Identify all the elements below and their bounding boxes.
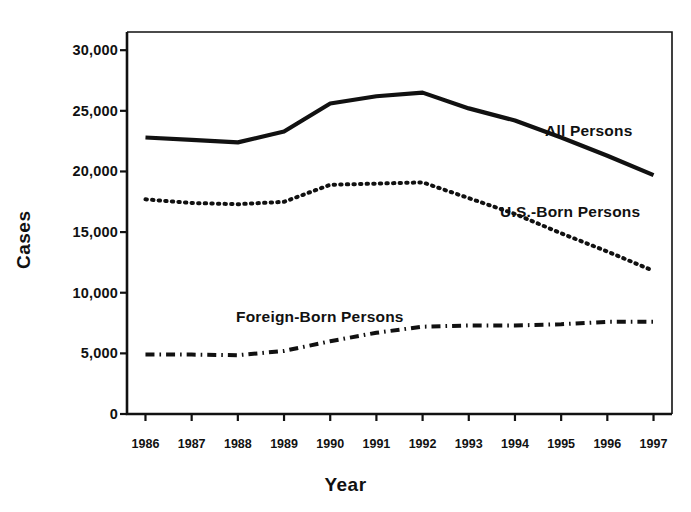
y-tick-label: 30,000 bbox=[72, 42, 118, 58]
x-tick-label: 1986 bbox=[132, 437, 160, 451]
y-tick-label: 25,000 bbox=[72, 103, 118, 119]
x-tick-label: 1990 bbox=[316, 437, 344, 451]
x-tick-label: 1992 bbox=[409, 437, 437, 451]
y-axis-title: Cases bbox=[4, 150, 44, 330]
series-line bbox=[145, 182, 653, 271]
series-label: U.S.-Born Persons bbox=[500, 203, 640, 221]
y-tick-label: 5,000 bbox=[81, 345, 118, 361]
x-tick-label: 1995 bbox=[547, 437, 575, 451]
x-tick-label: 1989 bbox=[270, 437, 298, 451]
x-tick-label: 1996 bbox=[593, 437, 621, 451]
y-axis-tick-labels: 05,00010,00015,00020,00025,00030,000 bbox=[46, 0, 118, 512]
y-tick-label: 0 bbox=[110, 406, 118, 422]
x-tick-label: 1988 bbox=[224, 437, 252, 451]
x-tick-label: 1991 bbox=[363, 437, 391, 451]
y-tick-label: 15,000 bbox=[72, 224, 118, 240]
series-label: Foreign-Born Persons bbox=[236, 308, 404, 326]
x-tick-label: 1994 bbox=[501, 437, 529, 451]
y-tick-label: 20,000 bbox=[72, 163, 118, 179]
x-tick-label: 1987 bbox=[178, 437, 206, 451]
x-tick-label: 1997 bbox=[640, 437, 668, 451]
y-tick-label: 10,000 bbox=[72, 285, 118, 301]
series-line bbox=[145, 322, 653, 355]
series-label: All Persons bbox=[545, 122, 632, 140]
x-tick-label: 1993 bbox=[455, 437, 483, 451]
chart-figure: Cases Year 05,00010,00015,00020,00025,00… bbox=[0, 0, 691, 512]
axis-tick-marks bbox=[120, 50, 654, 421]
